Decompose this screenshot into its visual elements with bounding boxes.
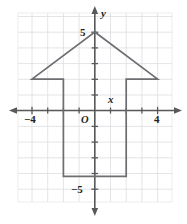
x-tick-label-4: 4	[154, 113, 160, 125]
coordinate-plane-svg: x y −4 4 5 −5 O	[0, 0, 187, 224]
x-axis-label: x	[107, 93, 114, 105]
origin-label: O	[81, 114, 89, 125]
coordinate-plane-figure: x y −4 4 5 −5 O	[0, 0, 187, 224]
y-axis-label: y	[99, 7, 106, 19]
y-tick-label-5: 5	[80, 26, 86, 38]
y-tick-label-negative-5: −5	[71, 183, 83, 195]
x-tick-label-negative-4: −4	[24, 113, 36, 125]
